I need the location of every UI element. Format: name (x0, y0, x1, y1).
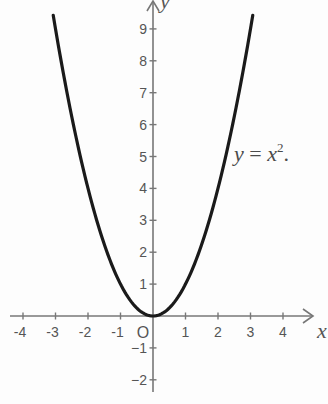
x-tick-label: -1 (111, 324, 124, 340)
chart-figure: -4-3-2-11234−2−1123456789Oxy y = x2. (0, 0, 328, 404)
parabola-plot: -4-3-2-11234−2−1123456789Oxy (0, 0, 328, 404)
x-tick-label: -3 (46, 324, 59, 340)
x-tick-label: 2 (214, 324, 222, 340)
x-tick-label: -4 (14, 324, 27, 340)
x-tick-label: 4 (279, 324, 287, 340)
equation-equals: = (244, 141, 267, 166)
x-tick-label: 3 (247, 324, 255, 340)
y-tick-label: 7 (139, 85, 147, 101)
x-tick-label: -2 (79, 324, 92, 340)
x-axis-label: x (316, 318, 327, 343)
y-tick-label: 6 (139, 117, 147, 133)
y-tick-label: 4 (139, 180, 147, 196)
y-tick-label: 2 (139, 244, 147, 260)
equation-period: . (283, 141, 289, 166)
equation-rhs-var: x (267, 141, 277, 166)
y-tick-label: 3 (139, 212, 147, 228)
y-tick-label: 9 (139, 21, 147, 37)
y-tick-label: 8 (139, 53, 147, 69)
y-tick-label: 1 (139, 276, 147, 292)
origin-label: O (137, 324, 149, 341)
x-tick-label: 1 (182, 324, 190, 340)
y-tick-label: −2 (131, 372, 147, 388)
equation-label: y = x2. (234, 140, 289, 167)
y-tick-label: −1 (131, 340, 147, 356)
equation-lhs: y (234, 141, 244, 166)
y-tick-label: 5 (139, 149, 147, 165)
y-axis-label: y (158, 0, 170, 13)
